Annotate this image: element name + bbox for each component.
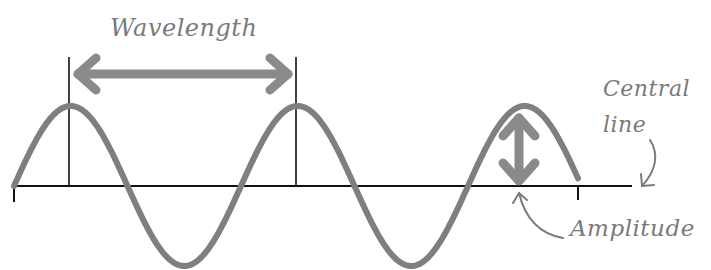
wavelength-arrow-icon (78, 58, 288, 90)
central-line-pointer-icon (641, 140, 655, 186)
central-line-label-line2: line (603, 112, 646, 137)
wavelength-label: Wavelength (110, 14, 257, 42)
central-line-label-line1: Central (603, 76, 690, 101)
amplitude-arrow-icon (503, 118, 535, 181)
amplitude-pointer-icon (513, 193, 563, 238)
amplitude-label: Amplitude (570, 215, 695, 241)
